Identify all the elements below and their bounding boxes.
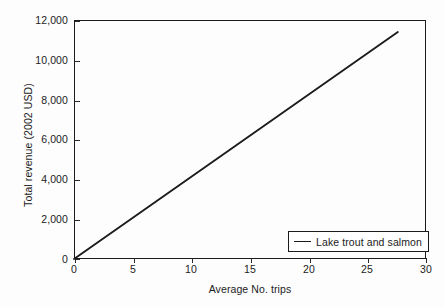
y-axis-tick (75, 21, 80, 22)
y-axis-tick (75, 61, 80, 62)
chart-figure: 12,000 10,000 8,000 6,000 4,000 2,000 0 … (0, 0, 445, 307)
x-axis-tick (251, 258, 252, 263)
plot-area (74, 20, 426, 259)
x-axis-tick (75, 258, 76, 263)
x-tick-label: 25 (347, 263, 387, 275)
x-axis-title: Average No. trips (74, 283, 426, 295)
legend-line-swatch-icon (294, 241, 311, 242)
x-axis-tick (368, 258, 369, 263)
y-axis-tick (75, 220, 80, 221)
chart-legend: Lake trout and salmon (288, 231, 429, 252)
y-axis-tick (75, 101, 80, 102)
y-axis-title: Total revenue (2002 USD) (22, 45, 34, 245)
x-tick-label: 15 (230, 263, 270, 275)
legend-entry-label: Lake trout and salmon (316, 236, 422, 248)
y-tick-label: 12,000 (14, 14, 68, 26)
x-axis-tick (134, 258, 135, 263)
x-axis-tick (192, 258, 193, 263)
x-axis-tick (426, 258, 427, 263)
x-tick-label: 10 (171, 263, 211, 275)
x-tick-label: 20 (289, 263, 329, 275)
y-axis-tick (75, 180, 80, 181)
x-tick-label: 30 (406, 263, 445, 275)
x-tick-label: 0 (54, 263, 94, 275)
y-axis-tick (75, 140, 80, 141)
x-tick-label: 5 (113, 263, 153, 275)
x-axis-tick (310, 258, 311, 263)
